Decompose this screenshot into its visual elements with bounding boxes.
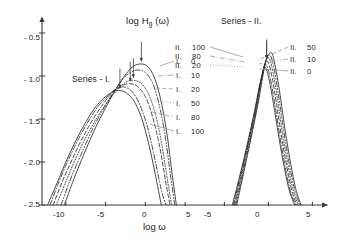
legend-roman-ii-right-0: II.	[290, 44, 307, 52]
curve-i-10	[50, 87, 166, 205]
x-tick-label-right-2: 5	[306, 211, 310, 219]
y-axis-label: log Hg (ω)	[126, 16, 169, 27]
legend-roman-i-5: I.	[176, 128, 191, 136]
legend-item-ii-left-0[interactable]: II.100	[175, 44, 205, 52]
legend-leader-line	[210, 65, 245, 67]
x-tick-label-right-0: -5	[204, 211, 211, 219]
legend-leader-line	[150, 124, 174, 131]
x-tick-label-left-1: -5	[97, 211, 104, 219]
legend-value-i-1: 10	[191, 72, 200, 80]
panel-title-series-one: Series - I.	[72, 75, 110, 84]
legend-item-i-2[interactable]: I.20	[176, 86, 200, 94]
legend-value-i-4: 80	[191, 114, 200, 122]
y-tick-label-0: - 0.5	[6, 34, 40, 42]
curve-ii-100	[232, 67, 294, 205]
curve-i-50	[56, 80, 171, 205]
y-tick-label-3: - 2.0	[6, 159, 40, 167]
legend-item-ii-right-2[interactable]: II.0	[290, 68, 311, 76]
legend-leader-line	[210, 47, 243, 57]
legend-item-ii-right-0[interactable]: II.50	[290, 44, 316, 52]
y-tick-label-1: - 1.0	[6, 76, 40, 84]
legend-leader-line	[154, 100, 174, 103]
legend-value-ii-right-2: 0	[307, 68, 311, 76]
legend-value-i-2: 20	[191, 86, 200, 94]
legend-value-i-3: 50	[191, 100, 200, 108]
legend-roman-i-1: I.	[176, 72, 191, 80]
legend-leader-line	[158, 75, 174, 76]
legend-leader-line	[258, 47, 288, 60]
legend-value-ii-left-1: 80	[192, 53, 201, 61]
legend-item-i-1[interactable]: I.10	[176, 72, 200, 80]
legend-roman-i-4: I.	[176, 114, 191, 122]
chart-canvas	[0, 0, 339, 245]
legend-item-i-3[interactable]: I.50	[176, 100, 200, 108]
y-axis-label-main: log H	[126, 15, 149, 26]
legend-roman-ii-left-1: II.	[175, 53, 192, 61]
x-tick-label-left-0: -10	[53, 211, 65, 219]
panel-title-series-two: Series - II.	[221, 17, 262, 26]
legend-leader-line	[156, 88, 174, 89]
legend-roman-ii-left-2: II.	[175, 62, 192, 70]
legend-item-ii-right-1[interactable]: II.10	[290, 56, 316, 64]
legend-item-ii-left-2[interactable]: II.20	[175, 62, 201, 70]
legend-leader-line	[210, 56, 244, 62]
curve-ii-80	[233, 65, 295, 205]
x-axis-label: log ω	[143, 222, 166, 232]
legend-value-ii-right-1: 10	[307, 56, 316, 64]
x-tick-label-right-1: 0	[255, 211, 259, 219]
legend-item-i-5[interactable]: I.100	[176, 128, 204, 136]
legend-roman-i-2: I.	[176, 86, 191, 94]
legend-value-ii-left-2: 20	[192, 62, 201, 70]
x-tick-label-left-3: 5	[186, 211, 190, 219]
legend-roman-i-3: I.	[176, 100, 191, 108]
legend-roman-ii-right-2: II.	[290, 68, 307, 76]
legend-value-i-5: 100	[191, 128, 204, 136]
legend-value-ii-left-0: 100	[192, 44, 205, 52]
figure-container: log Hg (ω) log ω - 0.5 - 1.0 - 1.5 - 2.0…	[0, 0, 339, 245]
legend-item-i-4[interactable]: I.80	[176, 114, 200, 122]
y-tick-label-4: - 2.5	[6, 201, 40, 209]
legend-value-ii-right-0: 50	[307, 44, 316, 52]
y-tick-label-2: - 1.5	[6, 118, 40, 126]
curve-ii-20	[235, 58, 298, 205]
legend-leader-line	[160, 61, 174, 66]
y-axis-label-arg: (ω)	[152, 15, 169, 26]
x-tick-label-left-2: 0	[142, 211, 146, 219]
legend-roman-ii-left-0: II.	[175, 44, 192, 52]
legend-roman-ii-right-1: II.	[290, 56, 307, 64]
legend-item-ii-left-1[interactable]: II.80	[175, 53, 201, 61]
